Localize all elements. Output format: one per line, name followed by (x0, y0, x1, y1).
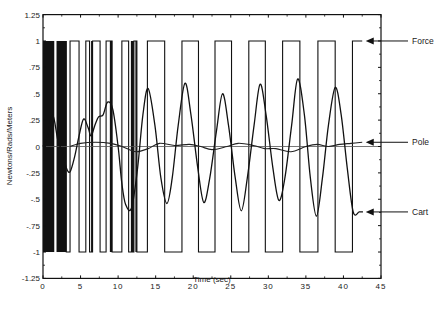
x-tick-label: 15 (150, 282, 161, 291)
y-tick-label: -.5 (31, 195, 41, 204)
annotation-label-pole: Pole (412, 137, 429, 147)
y-tick-label: .25 (29, 116, 41, 125)
x-tick-label: 45 (376, 282, 387, 291)
y-tick-label: -1 (33, 248, 41, 257)
y-tick-label: 0 (36, 143, 41, 152)
annotation-label-force: Force (412, 36, 434, 46)
y-tick-label: -.25 (26, 169, 40, 178)
x-tick-label: 5 (78, 282, 83, 291)
x-tick-label: 40 (338, 282, 349, 291)
y-tick-label: 1.25 (24, 11, 40, 20)
chart: 051015202530354045 1.251.75.5.250-.25-.5… (0, 0, 445, 311)
y-tick-label: .5 (33, 90, 40, 99)
y-tick-label: .75 (29, 63, 41, 72)
arrow-left-icon (366, 37, 374, 44)
arrow-left-icon (366, 139, 374, 146)
y-tick-label: -.75 (26, 222, 40, 231)
y-tick-label: 1 (36, 37, 41, 46)
legend-annotations: ForcePoleCart (366, 36, 434, 217)
arrow-left-icon (366, 208, 374, 215)
x-tick-label: 30 (263, 282, 274, 291)
x-tick-label: 10 (113, 282, 124, 291)
annotation-label-cart: Cart (412, 207, 429, 217)
y-tick-label: -1.25 (22, 274, 41, 283)
x-axis-title: Time (sec) (193, 275, 231, 284)
x-tick-label: 35 (300, 282, 311, 291)
x-tick-label: 0 (40, 282, 45, 291)
y-axis-title: Newtons/Rads/Meters (5, 107, 14, 186)
